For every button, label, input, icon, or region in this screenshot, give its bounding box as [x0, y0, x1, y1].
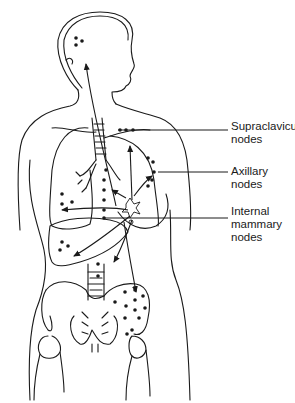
- dots-liver: [58, 240, 70, 252]
- dots-lung: [60, 192, 74, 206]
- dots-brain: [74, 36, 84, 47]
- label-leader-lines: [104, 130, 228, 218]
- label-axillary-nodes: Axillary nodes: [231, 165, 268, 191]
- arrow-to-pelvis: [124, 222, 136, 292]
- breast-cancer-spread-diagram: [0, 0, 295, 403]
- dots-spine: [96, 262, 100, 278]
- arrow-to-liver: [74, 216, 130, 256]
- spine: [88, 264, 104, 300]
- label-supraclavicular-nodes: Supraclavicular nodes: [231, 120, 295, 146]
- dots-pelvis: [113, 288, 147, 336]
- lung-right: [50, 128, 93, 229]
- metastasis-dots: [58, 36, 156, 336]
- arrow-to-lung: [62, 208, 128, 210]
- spread-arrows: [62, 64, 152, 292]
- breast-outline: [118, 194, 168, 228]
- dots-supraclavicular: [118, 128, 135, 132]
- arrow-to-supraclavicular: [130, 146, 132, 200]
- label-internal-mammary-nodes: Internal mammary nodes: [231, 205, 282, 244]
- dots-internal-mammary: [102, 168, 108, 220]
- head-outline: [58, 12, 135, 104]
